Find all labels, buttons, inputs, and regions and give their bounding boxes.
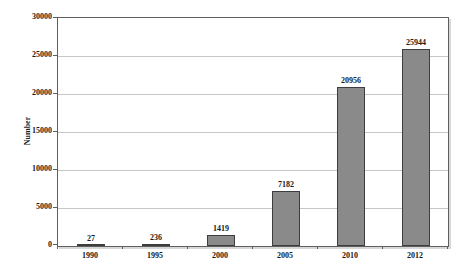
y-tick-label: 10000: [8, 164, 52, 174]
x-tick-label: 2012: [385, 251, 445, 261]
gridline: [58, 132, 448, 133]
bar: [77, 244, 105, 246]
bar-value-label: 1419: [196, 224, 246, 233]
x-tick-label: 2000: [190, 251, 250, 261]
gridline: [58, 208, 448, 209]
bar: [402, 49, 430, 246]
bar: [207, 235, 235, 246]
bar: [142, 244, 170, 246]
bar-value-label: 7182: [261, 180, 311, 189]
bar-value-label: 25944: [391, 38, 441, 47]
x-tick-label: 2005: [255, 251, 315, 261]
y-tick-label: 15000: [8, 126, 52, 136]
plot-area: 27236141971822095625944: [57, 17, 449, 247]
bar-value-label: 27: [66, 234, 116, 243]
x-tick-mark: [122, 246, 123, 249]
bar: [337, 87, 365, 246]
x-tick-mark: [252, 246, 253, 249]
x-tick-mark: [447, 246, 448, 249]
y-tick-label: 25000: [8, 50, 52, 60]
y-tick-label: 0: [8, 240, 52, 250]
bar: [272, 191, 300, 246]
gridline: [58, 56, 448, 57]
bar-chart: Number 050001000015000200002500030000 27…: [0, 0, 471, 273]
bar-value-label: 20956: [326, 76, 376, 85]
x-tick-label: 1990: [60, 251, 120, 261]
x-tick-mark: [57, 246, 58, 249]
x-tick-label: 1995: [125, 251, 185, 261]
x-tick-label: 2010: [320, 251, 380, 261]
y-tick-label: 30000: [8, 12, 52, 22]
y-tick-label: 5000: [8, 202, 52, 212]
gridline: [58, 170, 448, 171]
bar-value-label: 236: [131, 233, 181, 242]
y-tick-label: 20000: [8, 88, 52, 98]
x-tick-mark: [187, 246, 188, 249]
gridline: [58, 94, 448, 95]
x-tick-mark: [317, 246, 318, 249]
x-tick-mark: [382, 246, 383, 249]
